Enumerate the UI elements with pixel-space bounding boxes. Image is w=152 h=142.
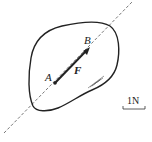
force-label: F xyxy=(73,64,82,76)
point-b-label: B xyxy=(84,34,91,46)
point-a-label: A xyxy=(44,71,52,83)
force-diagram: A B F 1N xyxy=(0,0,152,142)
force-vector xyxy=(55,51,86,83)
scale-bar xyxy=(123,106,145,109)
hatch-mark xyxy=(88,76,104,88)
point-a xyxy=(53,81,57,85)
scale-label: 1N xyxy=(127,95,139,106)
line-of-action xyxy=(4,2,132,133)
